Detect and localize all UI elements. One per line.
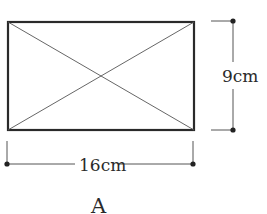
diagram-canvas: 9cm 16cm A (0, 0, 267, 214)
width-label: 16cm (79, 155, 126, 175)
figure-label: A (90, 194, 107, 214)
height-label: 9cm (222, 66, 258, 86)
